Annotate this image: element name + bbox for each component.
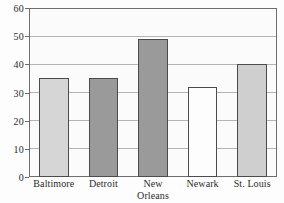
bars-layer <box>29 8 277 177</box>
bar-detroit <box>89 78 119 177</box>
x-tick-label-line: Newark <box>186 178 218 189</box>
x-tick-label-line: St. Louis <box>234 178 271 189</box>
y-tick-label-0: 0 <box>19 172 24 183</box>
x-tick-label-st-louis: St. Louis <box>227 178 277 190</box>
x-tick-label-line: New <box>143 178 162 189</box>
y-tick-label-10: 10 <box>14 143 24 154</box>
bar-newark <box>188 87 218 177</box>
x-tick-label-line: Baltimore <box>33 178 74 189</box>
y-tick-label-30: 30 <box>14 87 24 98</box>
bar-st-louis <box>237 64 267 177</box>
y-tick-label-60: 60 <box>14 3 24 14</box>
x-axis: BaltimoreDetroitNewOrleansNewarkSt. Loui… <box>29 178 277 203</box>
y-tick-label-50: 50 <box>14 31 24 42</box>
y-tick-label-20: 20 <box>14 115 24 126</box>
x-tick-label-line: Orleans <box>128 190 178 202</box>
bar-new-orleans <box>138 39 168 177</box>
x-tick-label-detroit: Detroit <box>79 178 129 190</box>
bar-chart: 0102030405060 BaltimoreDetroitNewOrleans… <box>0 0 284 203</box>
y-tick-label-40: 40 <box>14 59 24 70</box>
bar-baltimore <box>39 78 69 177</box>
x-tick-label-new-orleans: NewOrleans <box>128 178 178 201</box>
x-tick-label-newark: Newark <box>178 178 228 190</box>
x-tick-label-baltimore: Baltimore <box>29 178 79 190</box>
y-axis: 0102030405060 <box>0 0 29 203</box>
x-tick-label-line: Detroit <box>89 178 118 189</box>
